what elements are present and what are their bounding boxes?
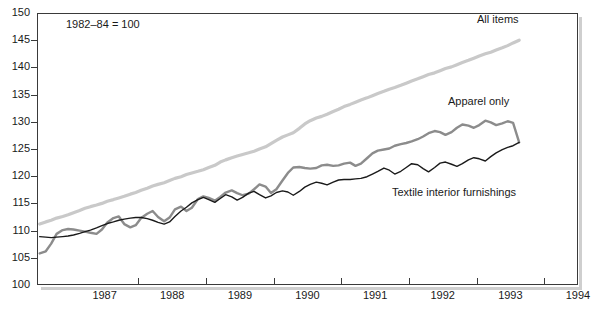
series-label-all-items: All items [477,13,519,25]
series-label-textile-interior-furnishings: Textile interior furnishings [392,186,516,198]
series-layer [0,0,592,315]
cpi-line-chart: 100105110115120125130135140145150 198719… [0,0,592,315]
series-label-apparel-only: Apparel only [448,95,509,107]
